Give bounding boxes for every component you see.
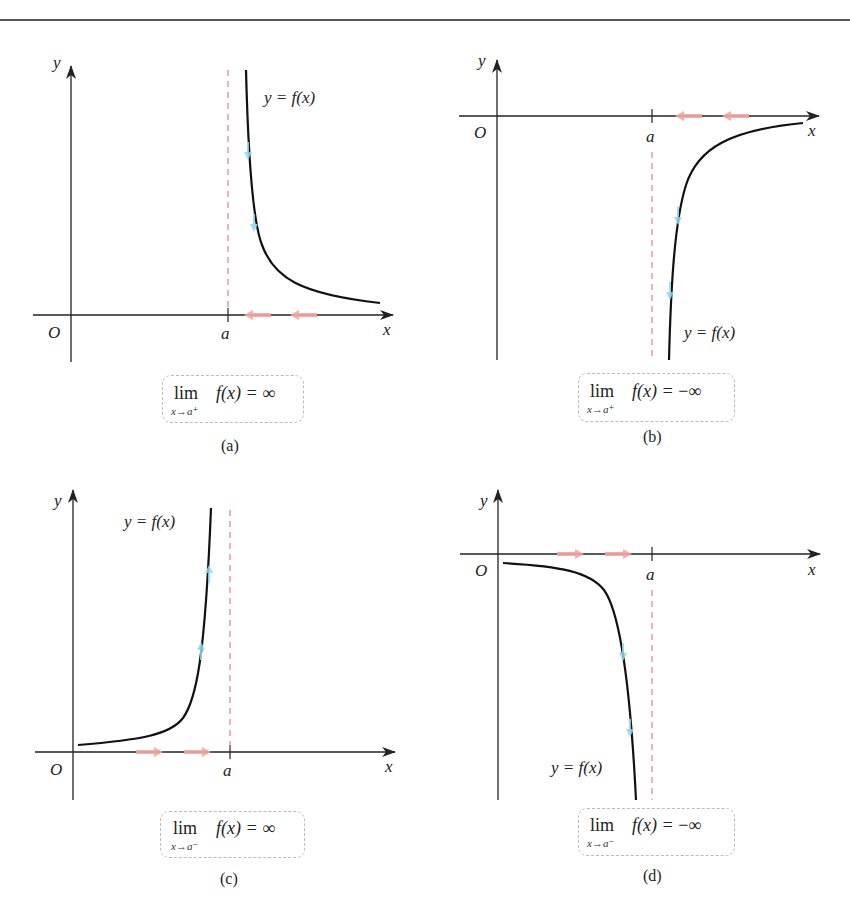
lim-text: lim bbox=[174, 384, 198, 402]
limit-box: lim x→a⁺ f(x) = −∞ bbox=[578, 373, 735, 422]
lim-expression: f(x) = −∞ bbox=[632, 382, 701, 400]
origin-label: O bbox=[48, 324, 60, 341]
lim-function: f(x) = bbox=[632, 381, 678, 401]
lim-subscript: x→a⁺ bbox=[587, 404, 614, 415]
caption: (a) bbox=[221, 438, 239, 454]
curve-label: y = f(x) bbox=[264, 89, 315, 106]
limit-box: lim x→a⁻ f(x) = −∞ bbox=[578, 808, 735, 856]
lim-expression: f(x) = −∞ bbox=[632, 816, 701, 834]
lim-value: −∞ bbox=[678, 381, 701, 401]
x-axis-label: x bbox=[383, 321, 391, 338]
curve bbox=[78, 508, 211, 745]
lim-value: ∞ bbox=[262, 383, 275, 403]
curve-label: y = f(x) bbox=[684, 324, 735, 341]
lim-function: f(x) = bbox=[216, 383, 262, 403]
lim-subscript: x→a⁻ bbox=[171, 841, 198, 852]
lim-expression: f(x) = ∞ bbox=[216, 384, 275, 402]
lim-text: lim bbox=[590, 816, 614, 834]
x-axis-label: x bbox=[808, 122, 816, 139]
limits-diagram bbox=[0, 0, 850, 900]
x-axis-label: x bbox=[808, 561, 816, 578]
y-axis-label: y bbox=[480, 492, 488, 509]
y-axis-label: y bbox=[54, 492, 62, 509]
curve-label: y = f(x) bbox=[551, 759, 602, 776]
y-axis-label: y bbox=[53, 54, 61, 71]
panel-d-graph bbox=[460, 490, 820, 800]
asymptote-label: a bbox=[646, 128, 655, 145]
panel-b-graph bbox=[459, 60, 819, 360]
lim-function: f(x) = bbox=[216, 818, 262, 838]
caption: (d) bbox=[643, 868, 662, 884]
asymptote-label: a bbox=[221, 325, 230, 342]
x-axis-label: x bbox=[385, 758, 393, 775]
lim-subscript: x→a⁺ bbox=[171, 406, 198, 417]
lim-text: lim bbox=[173, 819, 197, 837]
origin-label: O bbox=[50, 761, 62, 778]
limit-box: lim x→a⁻ f(x) = ∞ bbox=[160, 811, 305, 858]
caption: (c) bbox=[220, 871, 238, 887]
caption: (b) bbox=[643, 429, 662, 445]
lim-function: f(x) = bbox=[632, 815, 678, 835]
origin-label: O bbox=[475, 562, 487, 579]
lim-text: lim bbox=[590, 382, 614, 400]
asymptote-label: a bbox=[223, 762, 232, 779]
lim-expression: f(x) = ∞ bbox=[216, 819, 275, 837]
limit-box: lim x→a⁺ f(x) = ∞ bbox=[162, 375, 304, 423]
panel-a-graph bbox=[33, 66, 393, 362]
lim-value: ∞ bbox=[262, 818, 275, 838]
lim-subscript: x→a⁻ bbox=[587, 838, 614, 849]
asymptote-label: a bbox=[646, 566, 655, 583]
origin-label: O bbox=[474, 124, 486, 141]
lim-value: −∞ bbox=[678, 815, 701, 835]
panel-c-graph bbox=[35, 490, 395, 800]
y-axis-label: y bbox=[478, 52, 486, 69]
curve-label: y = f(x) bbox=[124, 513, 175, 530]
